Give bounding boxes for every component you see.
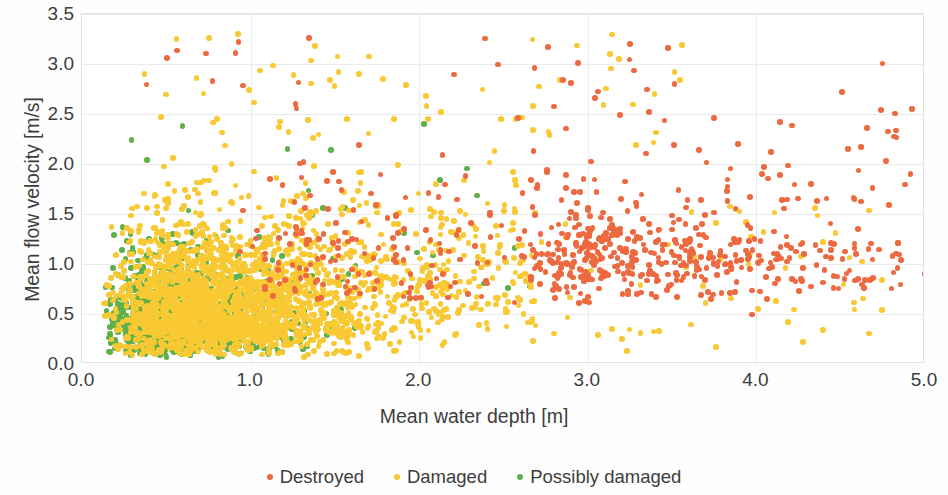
legend-item[interactable]: Possibly damaged xyxy=(517,466,681,488)
scatter-point-destroyed xyxy=(895,240,901,246)
scatter-point-destroyed xyxy=(692,273,698,279)
scatter-point-damaged xyxy=(326,248,332,254)
scatter-point-damaged xyxy=(442,339,448,345)
scatter-point-destroyed xyxy=(495,62,501,68)
scatter-point-destroyed xyxy=(302,205,308,211)
scatter-point-damaged xyxy=(306,216,312,222)
scatter-point-damaged xyxy=(517,297,523,303)
scatter-point-destroyed xyxy=(665,272,671,278)
scatter-point-destroyed xyxy=(801,251,807,257)
scatter-point-damaged xyxy=(174,231,180,237)
scatter-point-damaged xyxy=(486,301,492,307)
scatter-point-damaged xyxy=(305,331,311,337)
scatter-point-damaged xyxy=(151,290,157,296)
scatter-point-destroyed xyxy=(307,193,313,199)
scatter-point-damaged xyxy=(158,332,164,338)
scatter-point-destroyed xyxy=(550,287,556,293)
scatter-point-destroyed xyxy=(587,213,593,219)
scatter-point-damaged xyxy=(510,227,516,233)
scatter-point-destroyed xyxy=(342,230,348,236)
scatter-point-damaged xyxy=(170,155,176,161)
scatter-point-destroyed xyxy=(598,215,604,221)
scatter-point-destroyed xyxy=(562,251,568,257)
scatter-point-damaged xyxy=(186,312,192,318)
scatter-point-destroyed xyxy=(270,293,276,299)
scatter-point-destroyed xyxy=(571,259,577,265)
scatter-point-damaged xyxy=(630,102,636,108)
scatter-point-destroyed xyxy=(756,253,762,259)
scatter-point-destroyed xyxy=(530,204,536,210)
scatter-point-damaged xyxy=(879,277,885,283)
scatter-point-damaged xyxy=(117,292,123,298)
scatter-point-damaged xyxy=(672,69,678,75)
scatter-point-damaged xyxy=(530,37,536,43)
scatter-point-destroyed xyxy=(676,254,682,260)
scatter-point-damaged xyxy=(408,207,414,213)
scatter-point-damaged xyxy=(213,190,219,196)
scatter-point-destroyed xyxy=(520,190,526,196)
scatter-point-destroyed xyxy=(267,176,273,182)
scatter-point-destroyed xyxy=(824,196,830,202)
scatter-point-destroyed xyxy=(796,288,802,294)
scatter-point-destroyed xyxy=(440,152,446,158)
scatter-point-destroyed xyxy=(607,241,613,247)
legend-item[interactable]: Damaged xyxy=(394,466,487,488)
scatter-point-damaged xyxy=(358,169,364,175)
scatter-point-damaged xyxy=(188,260,194,266)
scatter-point-damaged xyxy=(232,335,238,341)
scatter-point-damaged xyxy=(225,268,231,274)
scatter-point-damaged xyxy=(425,116,431,122)
scatter-point-destroyed xyxy=(237,249,243,255)
scatter-point-destroyed xyxy=(356,142,362,148)
scatter-point-damaged xyxy=(349,314,355,320)
scatter-point-damaged xyxy=(163,92,169,98)
scatter-point-destroyed xyxy=(352,285,358,291)
scatter-point-destroyed xyxy=(297,265,303,271)
scatter-point-destroyed xyxy=(588,159,594,165)
y-tick-label: 3.0 xyxy=(26,54,74,73)
scatter-point-damaged xyxy=(124,317,130,323)
scatter-point-damaged xyxy=(473,234,479,240)
scatter-point-damaged xyxy=(183,334,189,340)
scatter-point-damaged xyxy=(638,282,644,288)
scatter-point-damaged xyxy=(603,86,609,92)
dot-marker-icon xyxy=(517,474,523,480)
scatter-point-destroyed xyxy=(627,57,633,63)
scatter-point-damaged xyxy=(165,278,171,284)
scatter-point-damaged xyxy=(305,117,311,123)
scatter-point-damaged xyxy=(168,297,174,303)
scatter-point-damaged xyxy=(183,286,189,292)
scatter-point-destroyed xyxy=(728,260,734,266)
scatter-point-damaged xyxy=(135,336,141,342)
scatter-point-destroyed xyxy=(795,196,801,202)
scatter-point-damaged xyxy=(160,305,166,311)
scatter-point-damaged xyxy=(380,76,386,82)
scatter-point-damaged xyxy=(206,35,212,41)
scatter-point-damaged xyxy=(608,66,614,72)
scatter-point-damaged xyxy=(321,310,327,316)
scatter-point-destroyed xyxy=(579,245,585,251)
scatter-point-destroyed xyxy=(852,196,858,202)
scatter-point-damaged xyxy=(333,267,339,273)
scatter-point-damaged xyxy=(511,255,517,261)
scatter-point-damaged xyxy=(275,240,281,246)
scatter-point-destroyed xyxy=(385,215,391,221)
scatter-point-damaged xyxy=(385,294,391,300)
scatter-point-destroyed xyxy=(401,257,407,263)
scatter-point-destroyed xyxy=(788,245,794,251)
scatter-point-destroyed xyxy=(585,205,591,211)
scatter-point-destroyed xyxy=(297,161,303,167)
scatter-point-destroyed xyxy=(233,50,239,56)
scatter-point-destroyed xyxy=(391,244,397,250)
scatter-point-damaged xyxy=(616,56,622,62)
scatter-point-damaged xyxy=(331,312,337,318)
scatter-point-damaged xyxy=(172,188,178,194)
scatter-point-damaged xyxy=(252,297,258,303)
scatter-chart-figure: Mean flow velocity [m/s] 0.00.51.01.52.0… xyxy=(0,0,948,495)
scatter-point-damaged xyxy=(257,68,263,74)
scatter-point-damaged xyxy=(529,299,535,305)
scatter-point-damaged xyxy=(496,265,502,271)
scatter-point-destroyed xyxy=(711,115,717,121)
legend-item[interactable]: Destroyed xyxy=(267,466,364,488)
scatter-point-destroyed xyxy=(607,216,613,222)
